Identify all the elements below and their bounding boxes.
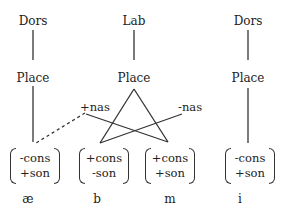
- feature-matrix-b: +cons -son: [79, 148, 129, 184]
- segment-ae: æ: [22, 192, 33, 206]
- node-place-ae: Place: [17, 71, 50, 85]
- node-dors-ae: Dors: [19, 14, 48, 28]
- feature-son: +son: [145, 166, 195, 180]
- segment-i: i: [238, 192, 242, 206]
- segment-m: m: [164, 192, 175, 206]
- node-dors-i: Dors: [234, 14, 263, 28]
- node-place-lab: Place: [118, 71, 151, 85]
- feature-cons: -cons: [225, 151, 275, 165]
- line-plusnas-ae-dashed: [36, 113, 85, 143]
- feature-matrix-ae: -cons +son: [10, 148, 60, 184]
- feature-cons: -cons: [10, 151, 60, 165]
- feature-cons: +cons: [79, 151, 129, 165]
- label-plus-nas: +nas: [80, 101, 110, 114]
- node-place-i: Place: [232, 71, 265, 85]
- node-lab: Lab: [123, 14, 146, 28]
- feature-matrix-m: +cons +son: [145, 148, 195, 184]
- line-place-m: [134, 89, 168, 142]
- feature-cons: +cons: [145, 151, 195, 165]
- label-minus-nas: -nas: [178, 101, 202, 114]
- line-minusnas-b: [100, 114, 182, 143]
- segment-b: b: [93, 192, 101, 206]
- feature-son: -son: [79, 166, 129, 180]
- feature-matrix-i: -cons +son: [225, 148, 275, 184]
- line-place-b: [100, 89, 134, 143]
- feature-son: +son: [10, 166, 60, 180]
- feature-son: +son: [225, 166, 275, 180]
- line-plusnas-m: [86, 114, 168, 142]
